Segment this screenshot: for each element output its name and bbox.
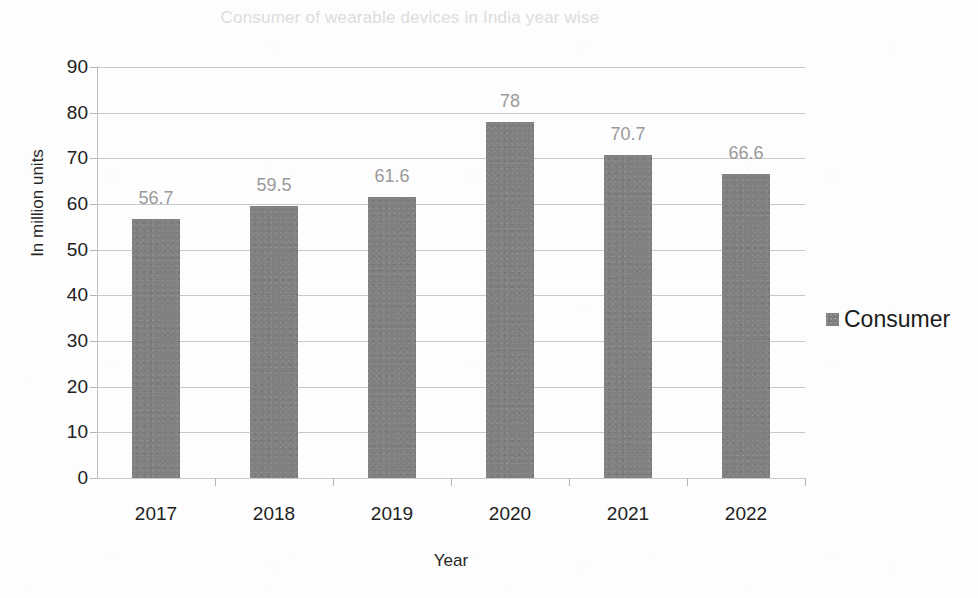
y-tick-mark [90,478,97,479]
x-axis-title: Year [97,551,805,571]
bar-value-label: 70.7 [610,124,645,145]
bar[interactable] [486,122,534,478]
x-tick-mark [215,478,216,486]
y-tick-label: 10 [48,421,88,443]
y-tick-mark [90,387,97,388]
y-tick-label: 0 [48,467,88,489]
x-tick-mark [333,478,334,486]
y-tick-label: 80 [48,102,88,124]
y-tick-label: 40 [48,284,88,306]
y-tick-mark [90,250,97,251]
bar-value-label: 56.7 [138,188,173,209]
y-tick-mark [90,158,97,159]
y-tick-label: 50 [48,239,88,261]
y-tick-label: 30 [48,330,88,352]
legend-label-consumer: Consumer [844,308,950,331]
x-tick-label-2018: 2018 [219,503,329,525]
bar-group: 61.6 [333,67,451,478]
y-tick-mark [90,204,97,205]
y-tick-label: 60 [48,193,88,215]
bar-group: 70.7 [569,67,687,478]
bar-value-label: 66.6 [728,143,763,164]
bar[interactable] [722,174,770,478]
plot-area: 56.759.561.67870.766.6 [97,67,805,478]
x-tick-mark [451,478,452,486]
x-tick-label-2021: 2021 [573,503,683,525]
x-tick-label-2019: 2019 [337,503,447,525]
bar-group: 66.6 [687,67,805,478]
bar-group: 56.7 [97,67,215,478]
chart-title: Consumer of wearable devices in India ye… [0,8,820,28]
x-tick-label-2022: 2022 [691,503,801,525]
bar-value-label: 61.6 [374,166,409,187]
bar[interactable] [604,155,652,478]
bar[interactable] [368,197,416,478]
bar-value-label: 59.5 [256,175,291,196]
bar[interactable] [250,206,298,478]
chart-page: Consumer of wearable devices in India ye… [0,0,978,598]
y-tick-mark [90,67,97,68]
bar-group: 59.5 [215,67,333,478]
y-axis-tick-labels: 0102030405060708090 [40,0,88,598]
y-tick-mark [90,295,97,296]
bar-series-consumer: 56.759.561.67870.766.6 [97,67,805,478]
y-tick-label: 20 [48,376,88,398]
legend-swatch-consumer [826,313,839,326]
y-tick-mark [90,341,97,342]
y-tick-label: 70 [48,147,88,169]
x-tick-mark [805,478,806,486]
bar-value-label: 78 [500,91,520,112]
x-tick-mark [687,478,688,486]
y-tick-mark [90,113,97,114]
y-tick-label: 90 [48,56,88,78]
chart-legend: Consumer [826,308,950,331]
x-tick-label-2020: 2020 [455,503,565,525]
y-tick-mark [90,432,97,433]
bar[interactable] [132,219,180,478]
x-tick-label-2017: 2017 [101,503,211,525]
bar-group: 78 [451,67,569,478]
x-tick-mark [569,478,570,486]
